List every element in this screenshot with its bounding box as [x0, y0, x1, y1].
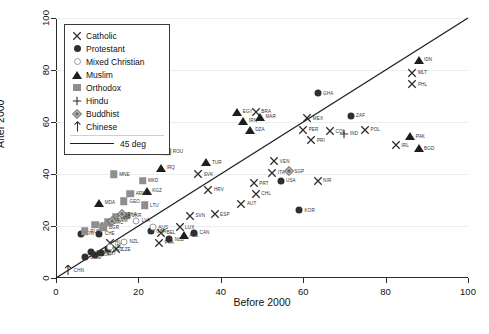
- y-tick-label-60: 60: [40, 117, 51, 128]
- data-point: [325, 126, 335, 136]
- legend-label-buddhist: Buddhist: [84, 109, 119, 119]
- legend-label-muslim: Muslim: [84, 70, 113, 80]
- x-tick-label-60: 60: [298, 286, 309, 297]
- data-point-label: CHN: [74, 269, 84, 274]
- legend-label-catholic: Catholic: [84, 31, 117, 41]
- y-axis-title: After 2000: [0, 100, 6, 148]
- filled-square-icon: [70, 84, 84, 92]
- data-point-label: IDN: [424, 58, 432, 63]
- data-point-label: USA: [286, 179, 296, 184]
- x-tick-label-80: 80: [380, 286, 391, 297]
- data-point-label: BGD: [424, 147, 434, 152]
- data-point-label: AUT: [247, 202, 257, 207]
- legend-item-orthodox: Orthodox: [70, 81, 164, 94]
- data-point: [284, 166, 294, 176]
- data-point-label: PRI: [317, 139, 325, 144]
- x-tick-60: [303, 278, 304, 283]
- x-tick-label-20: 20: [133, 286, 144, 297]
- filled-triangle-icon: [70, 71, 84, 79]
- data-point-label: THA: [127, 213, 137, 218]
- legend: CatholicProtestantMixed ChristianMuslimO…: [64, 24, 170, 155]
- data-point: [405, 132, 415, 140]
- data-point: [126, 190, 134, 198]
- data-point-label: MAR: [265, 115, 276, 120]
- legend-label-hindu: Hindu: [84, 96, 108, 106]
- data-point: [269, 156, 279, 166]
- data-point-label: ISL: [115, 245, 122, 250]
- data-point: [94, 199, 104, 207]
- legend-item-muslim: Muslim: [70, 68, 164, 81]
- data-point-label: DZA: [255, 128, 265, 133]
- data-point: [91, 221, 99, 229]
- data-point-label: GEO: [129, 200, 140, 205]
- reference-line-swatch: [70, 143, 114, 144]
- data-point: [232, 108, 242, 116]
- data-point-label: MLT: [418, 71, 427, 76]
- x-axis-title: Before 2000: [56, 296, 468, 308]
- data-point: [156, 164, 166, 172]
- data-point-label: ZAF: [356, 114, 365, 119]
- data-point-label: KOR: [305, 209, 315, 214]
- data-point-label: VEN: [280, 160, 290, 165]
- legend-label-mixed: Mixed Christian: [84, 57, 145, 67]
- data-point-label: NIR: [323, 179, 331, 184]
- data-point: [106, 243, 113, 250]
- data-point: [210, 209, 220, 219]
- data-point: [302, 113, 312, 123]
- data-point: [98, 250, 105, 257]
- data-point-label: TUR: [212, 161, 222, 166]
- legend-label-protestant: Protestant: [84, 44, 125, 54]
- legend-label-45deg: 45 deg: [114, 139, 146, 149]
- data-point-label: MEX: [313, 117, 323, 122]
- data-point-label: PAK: [416, 135, 425, 140]
- data-point-label: CAN: [200, 231, 210, 236]
- data-point: [313, 176, 323, 186]
- filled-circle-icon: [70, 45, 84, 52]
- data-point-label: SVN: [195, 214, 205, 219]
- data-point-label: NZL: [129, 240, 138, 245]
- x-tick-40: [221, 278, 222, 283]
- x-tick-label-100: 100: [460, 286, 476, 297]
- data-point: [347, 112, 354, 119]
- data-point-label: IRL: [401, 144, 408, 149]
- x-tick-label-40: 40: [216, 286, 227, 297]
- diamond-icon: [70, 109, 84, 119]
- x-cross-icon: [70, 31, 84, 41]
- data-point: [414, 144, 424, 152]
- legend-item-catholic: Catholic: [70, 29, 164, 42]
- data-point: [407, 79, 417, 89]
- x-tick-label-0: 0: [53, 286, 58, 297]
- data-point-label: ESP: [220, 213, 230, 218]
- legend-item-protestant: Protestant: [70, 42, 164, 55]
- data-point-label: AUS: [158, 226, 168, 231]
- data-point-label: SGP: [294, 170, 304, 175]
- arrow-up-icon: [70, 121, 84, 132]
- data-point-label: KGZ: [152, 189, 162, 194]
- data-point: [339, 129, 349, 139]
- y-tick-label-0: 0: [40, 275, 51, 280]
- x-tick-0: [56, 278, 57, 283]
- legend-label-orthodox: Orthodox: [84, 83, 121, 93]
- data-point-label: PER: [309, 128, 319, 133]
- data-point: [238, 117, 248, 125]
- data-point-label: EGY: [243, 110, 253, 115]
- x-tick-80: [386, 278, 387, 283]
- data-point-label: VNM: [117, 219, 128, 224]
- data-point-label: LTU: [150, 204, 159, 209]
- x-tick-20: [138, 278, 139, 283]
- data-point: [407, 68, 417, 78]
- data-point-label: ALB: [189, 234, 198, 239]
- data-point: [179, 231, 189, 239]
- legend-item-hindu: Hindu: [70, 94, 164, 107]
- data-point: [267, 168, 277, 178]
- legend-item-buddhist: Buddhist: [70, 107, 164, 120]
- data-point: [120, 198, 128, 206]
- data-point-label: MKD: [148, 179, 159, 184]
- y-tick-0: [51, 278, 56, 279]
- data-point-label: IRQ: [167, 166, 175, 171]
- data-point: [249, 178, 259, 188]
- legend-divider: [70, 135, 164, 136]
- data-point: [193, 169, 203, 179]
- y-tick-label-20: 20: [40, 221, 51, 232]
- y-tick-label-80: 80: [40, 65, 51, 76]
